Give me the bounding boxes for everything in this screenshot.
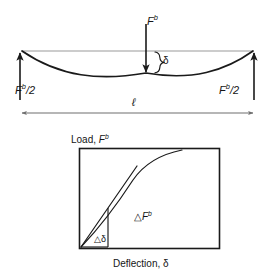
bending-test-figure: Fb δ Fb/2 Fb/2 ℓ Load, Fb Deflection, δ … — [0, 0, 275, 278]
reaction-left-label: Fb/2 — [15, 83, 35, 96]
initial-tangent-line — [81, 166, 137, 247]
plot-y-axis-superscript: b — [105, 133, 109, 140]
delta-force-superscript: b — [148, 210, 152, 217]
span-length-symbol: ℓ — [132, 96, 136, 108]
deflection-label: δ — [163, 56, 169, 66]
reaction-right-divisor: /2 — [230, 84, 239, 96]
reaction-left-divisor: /2 — [26, 84, 35, 96]
reaction-left-symbol: F — [15, 84, 22, 96]
delta-deflection-symbol: δ — [101, 234, 106, 244]
reaction-right-symbol: F — [219, 84, 226, 96]
plot-x-axis-label: Deflection, δ — [113, 259, 169, 269]
delta-force-triangle: △ — [134, 211, 142, 222]
deflection-symbol: δ — [163, 55, 169, 66]
applied-load-symbol: F — [147, 15, 154, 27]
reaction-right-label: Fb/2 — [219, 83, 239, 96]
delta-force-label: △Fb — [134, 211, 152, 222]
plot-x-axis-prefix: Deflection, — [113, 258, 163, 269]
span-length-label: ℓ — [132, 97, 136, 108]
applied-load-superscript: b — [154, 13, 158, 22]
plot-y-axis-prefix: Load, — [71, 134, 99, 145]
load-deflection-curve — [81, 150, 182, 247]
figure-drawing — [0, 0, 275, 278]
deflected-beam-curve — [22, 51, 253, 77]
delta-deflection-label: △δ — [94, 235, 106, 244]
applied-load-label: Fb — [147, 14, 158, 27]
plot-x-axis-symbol: δ — [163, 258, 169, 269]
delta-deflection-triangle: △ — [94, 234, 101, 244]
plot-y-axis-label: Load, Fb — [71, 134, 109, 145]
